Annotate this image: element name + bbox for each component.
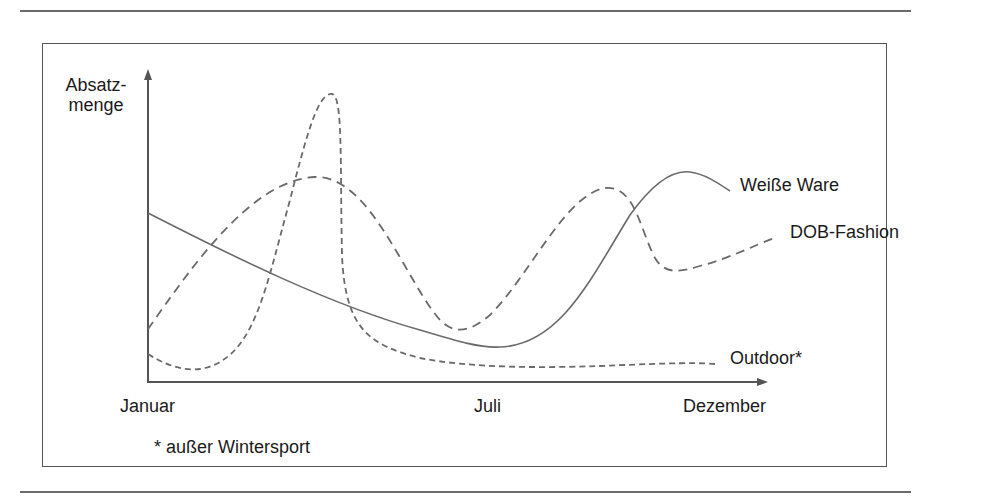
x-axis [147, 378, 768, 386]
series-dob-fashion [148, 177, 777, 330]
x-axis-arrow-icon [757, 378, 768, 386]
y-axis [144, 69, 152, 382]
line-chart [0, 0, 986, 496]
footnote: * außer Wintersport [154, 437, 310, 457]
series-weisse-ware [148, 172, 730, 347]
x-tick-juli: Juli [474, 396, 501, 416]
series-outdoor [148, 94, 715, 369]
x-tick-dezember: Dezember [683, 396, 766, 416]
bottom-rule [20, 491, 911, 493]
legend-label-outdoor: Outdoor* [730, 348, 802, 368]
y-axis-label-line1: Absatz- [60, 75, 132, 95]
legend-label-dob-fashion: DOB-Fashion [790, 222, 899, 242]
y-axis-arrow-icon [144, 69, 152, 80]
x-tick-januar: Januar [120, 396, 175, 416]
legend-label-weisse-ware: Weiße Ware [740, 175, 839, 195]
y-axis-label: Absatz- menge [60, 75, 132, 115]
y-axis-label-line2: menge [60, 95, 132, 115]
